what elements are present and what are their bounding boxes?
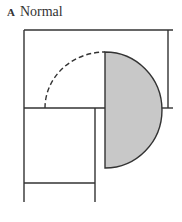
door-diagram [0,0,182,222]
dashed-swing-arc [45,52,105,108]
shaded-half-disc [105,52,162,168]
